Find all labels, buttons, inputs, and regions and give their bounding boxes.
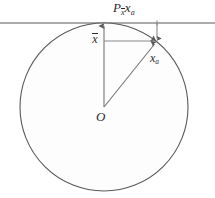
diagram-canvas bbox=[0, 0, 215, 198]
projection-diagram: Pxxa x xa O bbox=[0, 0, 215, 198]
